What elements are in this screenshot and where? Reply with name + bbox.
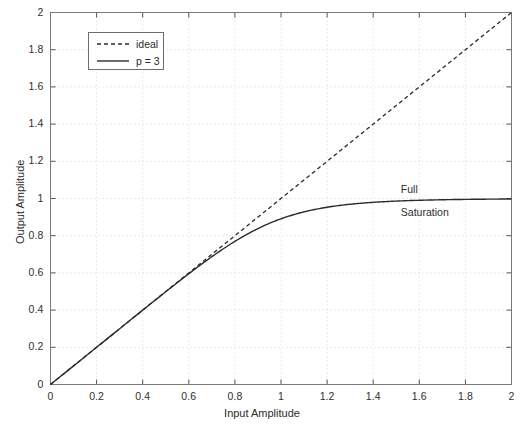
x-tick-label: 0 [31,390,71,402]
y-tick-label: 0.8 [29,229,44,241]
y-tick-label: 1.2 [29,154,44,166]
x-tick-label: 1 [261,390,301,402]
legend: ideal p = 3 [88,32,164,70]
y-tick-label: 0.2 [29,340,44,352]
legend-label-p3: p = 3 [136,55,160,67]
y-tick-label: 0 [38,378,44,390]
annotation-saturation: Saturation [401,206,449,218]
y-tick-label: 0.6 [29,266,44,278]
y-tick-label: 0.4 [29,303,44,315]
x-axis-title: Input Amplitude [0,407,524,419]
y-axis-title: Output Amplitude [14,159,26,243]
x-tick-label: 1.6 [399,390,439,402]
legend-swatch-dashed [96,38,130,50]
legend-swatch-solid [96,55,130,67]
annotation-full: Full [401,183,418,195]
x-tick-label: 0.8 [215,390,255,402]
x-tick-label: 0.6 [169,390,209,402]
x-tick-label: 0.2 [77,390,117,402]
y-tick-label: 1.4 [29,117,44,129]
x-tick-label: 0.4 [123,390,163,402]
legend-entry-ideal: ideal [89,35,163,53]
legend-entry-p3: p = 3 [89,52,163,70]
x-tick-label: 1.2 [307,390,347,402]
y-tick-label: 1.6 [29,80,44,92]
legend-label-ideal: ideal [136,38,158,50]
x-tick-label: 1.8 [445,390,485,402]
y-tick-label: 1 [38,192,44,204]
x-tick-label: 2 [492,390,524,402]
x-tick-label: 1.4 [353,390,393,402]
y-tick-label: 1.8 [29,43,44,55]
y-tick-label: 2 [38,6,44,18]
chart-figure: 00.20.40.60.811.21.41.61.82 00.20.40.60.… [0,0,524,436]
